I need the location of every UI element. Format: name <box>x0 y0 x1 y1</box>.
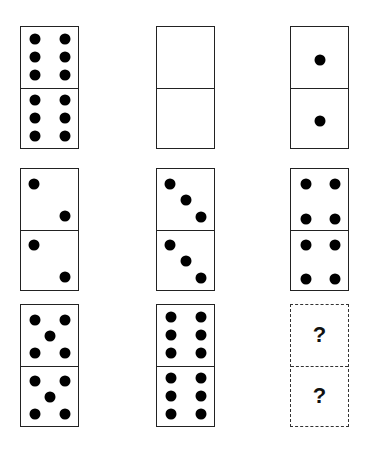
pip-icon <box>196 312 207 323</box>
pip-icon <box>29 52 40 63</box>
pip-icon <box>300 179 311 190</box>
pip-icon <box>196 273 207 284</box>
pip-icon <box>165 409 176 420</box>
pip-icon <box>60 271 71 282</box>
pip-icon <box>330 179 341 190</box>
question-mark: ? <box>291 383 348 409</box>
question-mark: ? <box>291 322 348 348</box>
pip-icon <box>60 211 71 222</box>
pip-icon <box>196 373 207 384</box>
pip-icon <box>196 212 207 223</box>
pip-icon <box>44 331 55 342</box>
pip-icon <box>60 34 71 45</box>
domino-r2c3 <box>290 168 349 291</box>
pip-icon <box>165 348 176 359</box>
pip-icon <box>164 179 175 190</box>
pip-icon <box>196 348 207 359</box>
pip-icon <box>165 391 176 402</box>
domino-half-bottom <box>291 230 348 291</box>
domino-r2c1 <box>20 168 79 291</box>
pip-icon <box>29 131 40 142</box>
domino-half-bottom <box>291 88 348 149</box>
domino-half-top <box>21 169 78 230</box>
domino-half-bottom <box>21 88 78 149</box>
pip-icon <box>29 409 40 420</box>
domino-half-bottom <box>21 230 78 291</box>
pip-icon <box>196 391 207 402</box>
pip-icon <box>29 376 40 387</box>
pip-icon <box>300 274 311 285</box>
domino-r2c2 <box>156 168 215 291</box>
pip-icon <box>60 95 71 106</box>
domino-half-bottom <box>21 366 78 427</box>
domino-half-bottom <box>157 88 214 149</box>
pip-icon <box>164 240 175 251</box>
pip-icon <box>330 274 341 285</box>
pip-icon <box>60 52 71 63</box>
domino-r3c1 <box>20 304 79 427</box>
domino-half-bottom <box>157 366 214 427</box>
domino-r1c3 <box>290 26 349 149</box>
domino-r3c2 <box>156 304 215 427</box>
pip-icon <box>60 409 71 420</box>
domino-half-top <box>21 305 78 366</box>
pip-icon <box>29 348 40 359</box>
pip-icon <box>60 113 71 124</box>
pip-icon <box>60 70 71 81</box>
pip-icon <box>300 213 311 224</box>
pip-icon <box>60 348 71 359</box>
pip-icon <box>44 392 55 403</box>
pip-icon <box>180 256 191 267</box>
domino-half-top <box>21 27 78 88</box>
pip-icon <box>330 213 341 224</box>
pip-icon <box>196 409 207 420</box>
pip-icon <box>29 70 40 81</box>
pip-icon <box>196 330 207 341</box>
pip-icon <box>330 240 341 251</box>
domino-half-top <box>157 27 214 88</box>
domino-half-bottom: ? <box>291 366 348 427</box>
pip-icon <box>60 131 71 142</box>
pip-icon <box>29 113 40 124</box>
pip-icon <box>29 95 40 106</box>
domino-half-top <box>157 305 214 366</box>
missing-domino: ?? <box>290 304 349 427</box>
pip-icon <box>314 116 325 127</box>
domino-half-top <box>157 169 214 230</box>
pip-icon <box>60 376 71 387</box>
domino-r1c1 <box>20 26 79 149</box>
pip-icon <box>29 315 40 326</box>
pip-icon <box>314 55 325 66</box>
pip-icon <box>28 240 39 251</box>
domino-r1c2 <box>156 26 215 149</box>
pip-icon <box>180 195 191 206</box>
domino-half-top: ? <box>291 305 348 366</box>
pip-icon <box>165 312 176 323</box>
pip-icon <box>165 373 176 384</box>
pip-icon <box>28 179 39 190</box>
domino-half-bottom <box>157 230 214 291</box>
domino-half-top <box>291 27 348 88</box>
pip-icon <box>300 240 311 251</box>
pip-icon <box>29 34 40 45</box>
pip-icon <box>60 315 71 326</box>
pip-icon <box>165 330 176 341</box>
domino-half-top <box>291 169 348 230</box>
